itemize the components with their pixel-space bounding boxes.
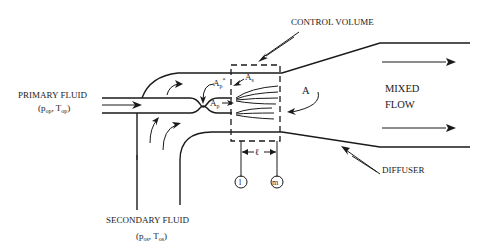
primary-jet-streamlines <box>236 86 278 119</box>
control-volume-label: CONTROL VOLUME <box>291 17 374 27</box>
station-m-label: m <box>272 178 279 187</box>
area-primary-label: Ap <box>210 98 220 109</box>
diffuser-label: DIFFUSER <box>382 165 425 175</box>
primary-fluid-label: PRIMARY FLUID <box>18 90 87 100</box>
station-1-label: l <box>239 178 242 187</box>
mixing-chamber-bottom-wall <box>232 132 470 147</box>
secondary-flow-arrow-1 <box>150 120 157 143</box>
area-label: A <box>302 85 310 96</box>
secondary-inlet-right-wall <box>180 132 232 205</box>
area-primary-throat-label: Ap* <box>213 77 226 89</box>
secondary-fluid-label: SECONDARY FLUID <box>106 215 189 225</box>
control-volume-pointer <box>262 32 299 58</box>
length-label: ℓ <box>255 147 259 157</box>
mixed-label: MIXED <box>385 83 420 94</box>
primary-fluid-params: (pop, Top) <box>38 103 70 114</box>
secondary-flow-arrow-2 <box>163 125 176 150</box>
flow-label: FLOW <box>385 99 415 110</box>
secondary-fluid-params: (pos, Tos) <box>136 231 167 242</box>
ejector-diagram: CONTROL VOLUME Ap* Ap As A ℓ l m MIXED F… <box>0 0 488 249</box>
